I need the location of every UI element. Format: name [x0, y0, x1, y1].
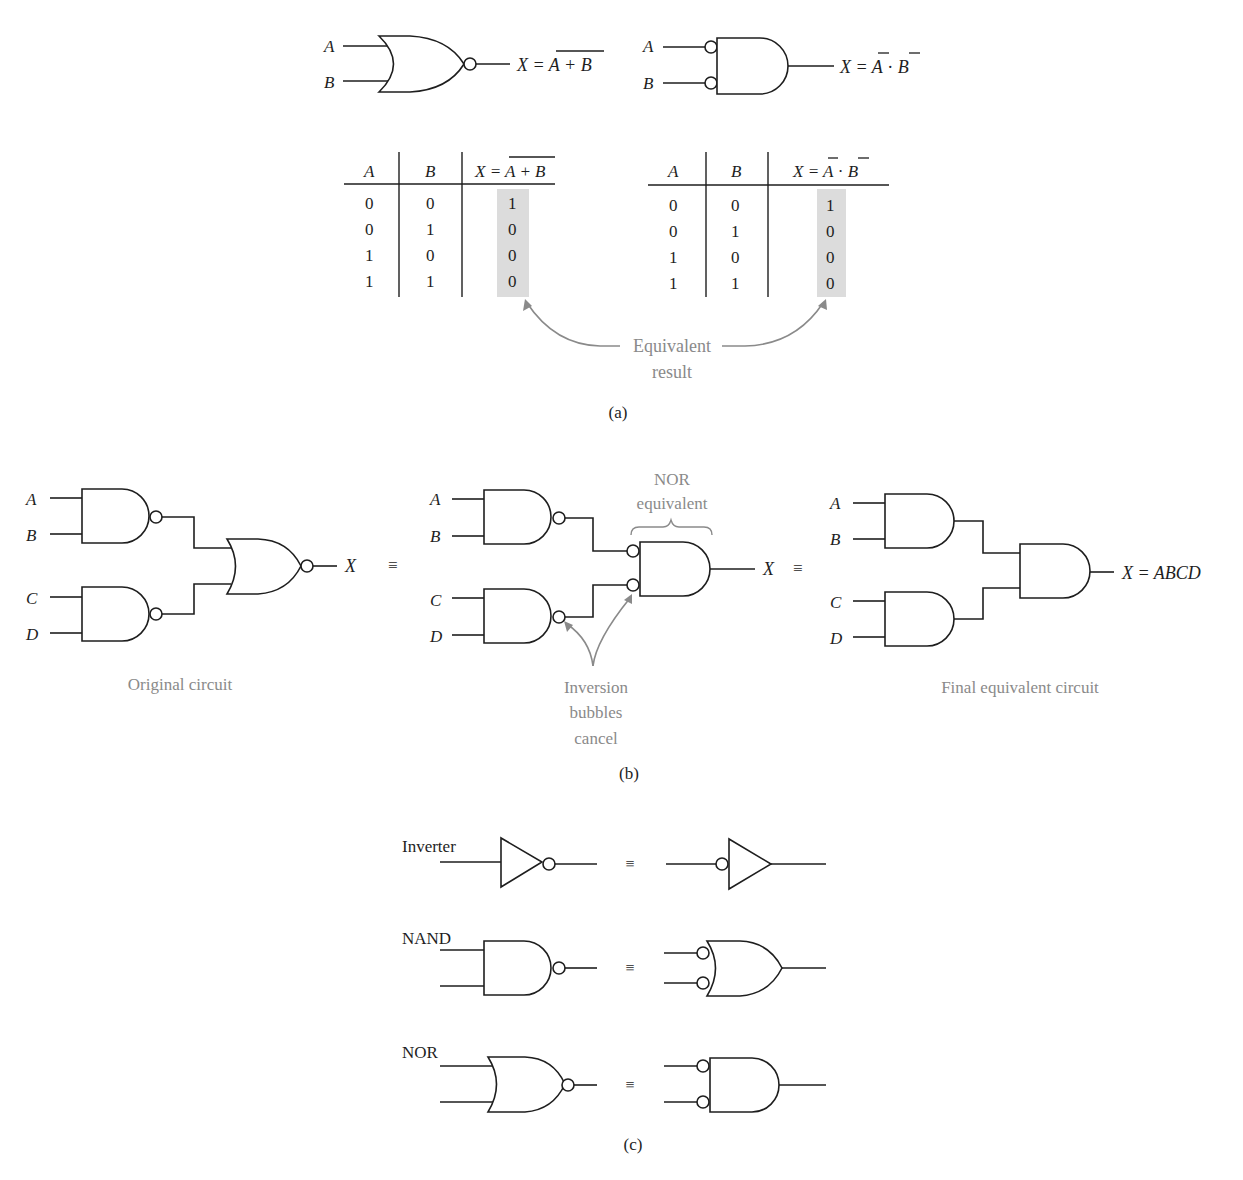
input-label-b: B: [26, 526, 37, 545]
inversion-bubble-icon: [697, 977, 709, 989]
brace-label-line-2: equivalent: [637, 494, 708, 513]
input-label-a: A: [642, 37, 654, 56]
inversion-bubble-icon: [553, 611, 565, 623]
cell: 1: [731, 274, 740, 293]
buffer-triangle: [729, 839, 771, 889]
input-label-a: A: [323, 37, 335, 56]
nor-gate-a: A B X = A + B: [323, 36, 604, 92]
nor-gate: [488, 1057, 565, 1112]
nand-equivalence: NAND ≡: [402, 929, 826, 996]
equivalence-symbol: ≡: [625, 959, 634, 976]
note-line-2: bubbles: [570, 703, 623, 722]
row-label-inverter: Inverter: [402, 837, 456, 856]
cell: 0: [826, 222, 835, 241]
column-header-x-b: B: [848, 162, 859, 181]
and-gate: [1020, 544, 1090, 598]
cell: 1: [826, 196, 835, 215]
cell: 1: [426, 272, 435, 291]
cell: 1: [365, 272, 374, 291]
brace-icon: [631, 520, 712, 535]
annotation-line-2: result: [652, 362, 692, 382]
inversion-bubble-icon: [627, 545, 639, 557]
cell: 0: [826, 248, 835, 267]
svg-text:X = A · B: X = A · B: [792, 162, 859, 181]
column-header-x-term: A + B: [504, 162, 546, 181]
and-gate: [885, 494, 954, 548]
equivalence-symbol: ≡: [625, 1076, 634, 1093]
cell: 1: [508, 194, 517, 213]
intermediate-circuit: A B C D X NOR equivalent Inversion bubbl…: [429, 470, 775, 748]
input-label-b: B: [430, 527, 441, 546]
cell: 0: [365, 194, 374, 213]
nand-gate: [484, 589, 551, 643]
svg-text:X = A + B: X = A + B: [516, 55, 592, 75]
input-label-b: B: [830, 530, 841, 549]
final-equivalent-circuit: A B C D X = ABCD Final equivalent circui…: [829, 494, 1201, 697]
nand-gate: [484, 941, 551, 995]
inversion-bubble-icon: [716, 858, 728, 870]
dot-operator: ·: [833, 162, 847, 181]
expression-lhs: X =: [516, 55, 549, 75]
cell: 0: [508, 246, 517, 265]
inversion-bubble-icon: [705, 77, 717, 89]
and-gate: [640, 542, 710, 596]
inversion-bubble-icon: [553, 512, 565, 524]
inversion-bubble-icon: [697, 947, 709, 959]
inversion-bubble-icon: [553, 962, 565, 974]
nor-gate: [227, 539, 301, 594]
cell: 0: [508, 272, 517, 291]
equivalent-result-annotation: Equivalent result: [523, 299, 827, 382]
original-circuit-label: Original circuit: [128, 675, 233, 694]
nor-equivalence: NOR ≡: [402, 1043, 826, 1112]
dot-operator: ·: [883, 57, 898, 77]
inversion-bubble-icon: [562, 1079, 574, 1091]
expression-b-bar: B: [898, 57, 909, 77]
final-circuit-label: Final equivalent circuit: [941, 678, 1099, 697]
cell: 1: [669, 248, 678, 267]
column-header-b: B: [731, 162, 742, 181]
input-label-d: D: [829, 629, 843, 648]
input-label-c: C: [26, 589, 38, 608]
caption-a: (a): [609, 403, 628, 422]
caption-b: (b): [619, 764, 639, 783]
column-header-x: X =: [792, 162, 823, 181]
column-header-a: A: [363, 162, 375, 181]
cell: 0: [731, 196, 740, 215]
inversion-bubble-icon: [464, 58, 476, 70]
note-line-3: cancel: [574, 729, 618, 748]
truth-table-nor: A B X = A + B 0 0 1 0 1 0 1 0 0 1 1 0: [344, 152, 555, 297]
equivalence-symbol: ≡: [793, 559, 803, 578]
cell: 1: [669, 274, 678, 293]
inversion-bubble-icon: [301, 560, 313, 572]
inversion-bubble-icon: [150, 511, 162, 523]
and-gate: [885, 592, 954, 646]
cell: 1: [365, 246, 374, 265]
inversion-bubble-icon: [697, 1096, 709, 1108]
column-header-x: X =: [474, 162, 505, 181]
and-gate: [710, 1058, 779, 1112]
output-label-x: X: [762, 559, 775, 579]
inversion-bubble-icon: [705, 41, 717, 53]
or-gate: [707, 941, 782, 996]
expression-lhs: X =: [839, 57, 872, 77]
note-line-1: Inversion: [564, 678, 629, 697]
annotation-line-1: Equivalent: [633, 336, 711, 356]
expression-overbar-term: A + B: [548, 55, 592, 75]
equivalence-symbol: ≡: [625, 855, 634, 872]
input-label-c: C: [830, 593, 842, 612]
row-label-nor: NOR: [402, 1043, 439, 1062]
nand-gate: [82, 587, 149, 641]
input-label-b: B: [324, 73, 335, 92]
inversion-bubble-icon: [150, 608, 162, 620]
cell: 0: [365, 220, 374, 239]
cell: 0: [826, 274, 835, 293]
output-label-x: X: [344, 556, 357, 576]
arrow-head-icon: [564, 621, 573, 632]
inverter-equivalence: Inverter ≡: [402, 837, 826, 889]
buffer-triangle: [501, 838, 542, 887]
caption-c: (c): [624, 1135, 643, 1154]
cell: 0: [426, 246, 435, 265]
nand-gate: [82, 489, 149, 543]
svg-text:X = A + B: X = A + B: [474, 162, 546, 181]
input-label-d: D: [429, 627, 443, 646]
